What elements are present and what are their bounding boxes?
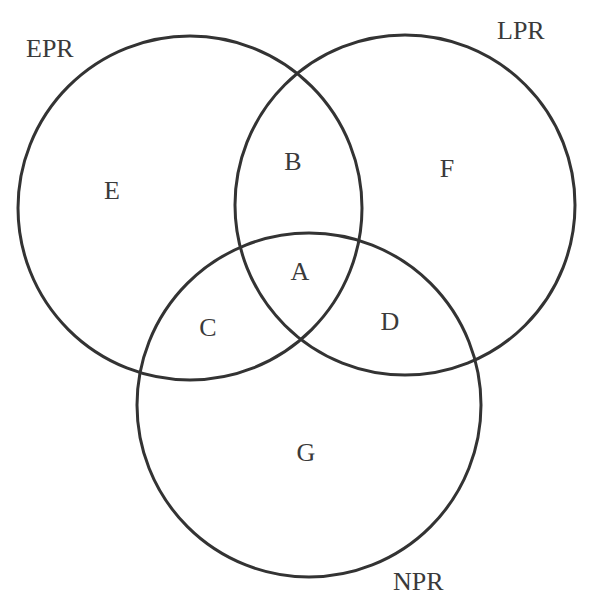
region-g-label: G [297,438,316,467]
region-c-label: C [199,313,216,342]
region-f-label: F [440,154,454,183]
epr-circle [18,36,362,380]
npr-set-label: NPR [393,567,444,596]
region-b-label: B [284,147,301,176]
region-e-label: E [104,176,120,205]
venn-diagram: EPR LPR NPR A B C D E F G [0,0,589,607]
lpr-circle [235,35,575,375]
region-a-label: A [291,257,310,286]
epr-set-label: EPR [26,34,74,63]
lpr-set-label: LPR [497,16,545,45]
region-d-label: D [381,307,400,336]
